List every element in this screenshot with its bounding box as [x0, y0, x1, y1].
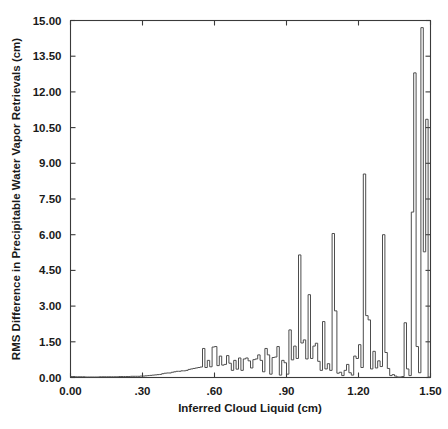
x-tick-label: .90	[279, 385, 295, 397]
y-tick-label: 13.50	[33, 50, 62, 62]
rms-difference-step-series	[71, 28, 431, 377]
y-axis-title: RMS Difference in Precipitable Water Vap…	[10, 38, 22, 360]
y-tick-label: 3.00	[39, 300, 61, 312]
x-tick-label: 1.20	[347, 385, 369, 397]
y-tick-label: 10.50	[33, 122, 62, 134]
x-tick-label: .60	[207, 385, 223, 397]
y-axis-ticks	[71, 21, 431, 378]
chart-figure: 0.001.503.004.506.007.509.0010.5012.0013…	[0, 0, 448, 429]
plot-frame	[71, 21, 431, 378]
x-tick-labels: 0.00.30.60.901.201.50	[59, 385, 441, 397]
x-axis-title: Inferred Cloud Liquid (cm)	[178, 402, 322, 414]
x-tick-label: 0.00	[59, 385, 81, 397]
y-tick-label: 9.00	[39, 157, 61, 169]
y-tick-label: 12.00	[33, 86, 62, 98]
y-tick-label: 0.00	[39, 372, 61, 384]
y-tick-label: 15.00	[33, 15, 62, 27]
y-tick-labels: 0.001.503.004.506.007.509.0010.5012.0013…	[33, 15, 62, 384]
y-tick-label: 6.00	[39, 229, 61, 241]
y-tick-label: 4.50	[39, 264, 61, 276]
y-tick-label: 7.50	[39, 193, 61, 205]
x-tick-label: .30	[135, 385, 151, 397]
x-axis-ticks	[71, 21, 431, 378]
chart-canvas: 0.001.503.004.506.007.509.0010.5012.0013…	[0, 0, 448, 429]
y-tick-label: 1.50	[39, 336, 61, 348]
x-tick-label: 1.50	[419, 385, 441, 397]
